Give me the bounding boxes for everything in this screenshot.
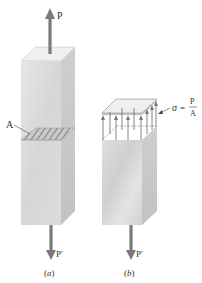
formula-denominator: A [190, 109, 196, 118]
force-arrow-down-icon [126, 225, 136, 260]
caption-b: (b) [124, 268, 135, 278]
force-label-p: P [57, 10, 63, 21]
stress-diagram: P A P' (a) [0, 0, 202, 283]
stress-plate [102, 99, 157, 113]
bar-b-front-face [102, 140, 142, 225]
figure-b: σ = P A P' (b) [101, 97, 197, 278]
force-arrow-down-icon [46, 225, 56, 260]
bar-a-front-face [21, 61, 61, 225]
figure-a: P A P' (a) [6, 8, 75, 278]
bar-b-side-face [142, 126, 157, 225]
sigma-symbol: σ [172, 102, 178, 113]
force-label-p-prime-b: P' [136, 249, 143, 259]
equals-sign: = [180, 103, 185, 113]
force-label-p-prime-a: P' [56, 249, 63, 259]
formula-numerator: P [190, 97, 195, 106]
stress-formula: σ = P A [158, 97, 197, 118]
area-label-a: A [6, 119, 14, 130]
caption-a: (a) [44, 268, 55, 278]
